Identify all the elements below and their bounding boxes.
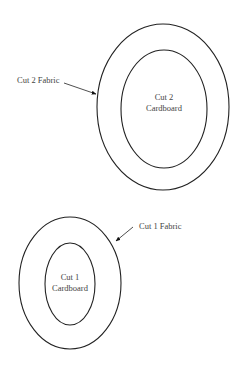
- cut2-cardboard-line1: Cut 2: [134, 92, 194, 103]
- cut1-cardboard-line1: Cut 1: [40, 272, 100, 283]
- pattern-diagram: [0, 0, 237, 375]
- cut1-fabric-label: Cut 1 Fabric: [139, 221, 182, 232]
- cut1-cardboard-label: Cut 1 Cardboard: [40, 272, 100, 294]
- cut1-cardboard-line2: Cardboard: [40, 283, 100, 294]
- cut2-fabric-label: Cut 2 Fabric: [17, 75, 60, 86]
- cut2-cardboard-label: Cut 2 Cardboard: [134, 92, 194, 114]
- cut2-cardboard-line2: Cardboard: [134, 103, 194, 114]
- cut1-fabric-arrow-icon: [116, 227, 133, 241]
- cut2-fabric-arrow-icon: [64, 83, 96, 94]
